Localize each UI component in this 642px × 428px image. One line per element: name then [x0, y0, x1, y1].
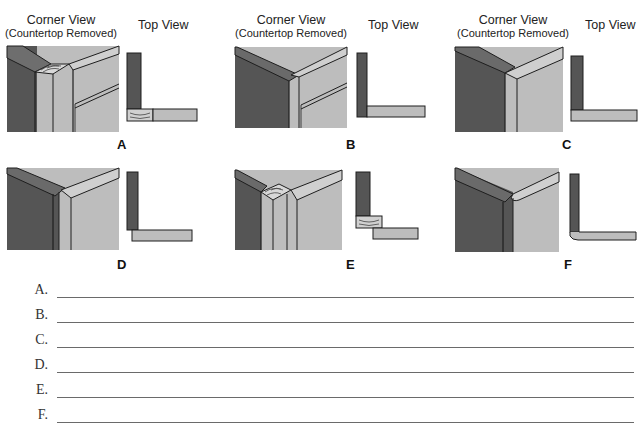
answer-line-a[interactable] — [57, 297, 634, 298]
corner-view-drawing-e — [235, 170, 342, 250]
top-view-drawing-c — [571, 56, 639, 122]
answer-row-e: E. — [0, 382, 642, 402]
corner-view-drawing-c — [455, 47, 563, 132]
corner-view-drawing-d — [7, 168, 119, 250]
answer-label: C. — [26, 332, 48, 348]
answer-row-a: A. — [0, 282, 642, 302]
panel-letter: D — [117, 257, 126, 272]
answer-line-d[interactable] — [57, 372, 634, 373]
answer-line-f[interactable] — [57, 422, 634, 423]
answer-label: A. — [26, 282, 48, 298]
top-view-drawing-e — [356, 172, 420, 240]
panel-letter: C — [562, 137, 571, 152]
answer-line-b[interactable] — [57, 322, 634, 323]
top-view-caption: Top View — [368, 18, 419, 32]
corner-view-drawing-f — [455, 168, 559, 252]
answer-line-c[interactable] — [57, 347, 634, 348]
answer-label: F. — [26, 407, 48, 423]
top-view-drawing-f — [570, 174, 638, 242]
corner-view-caption: Corner View (Countertop Removed) — [0, 14, 122, 40]
answer-line-e[interactable] — [57, 397, 634, 398]
panel-letter: E — [346, 257, 355, 272]
answer-label: B. — [26, 307, 48, 323]
top-view-drawing-a — [127, 53, 197, 121]
top-view-drawing-d — [127, 172, 193, 242]
clipped-text-remnant — [0, 0, 642, 5]
answer-row-f: F. — [0, 407, 642, 427]
answer-label: E. — [26, 382, 48, 398]
answer-label: D. — [26, 357, 48, 373]
corner-view-drawing-b — [235, 47, 347, 128]
corner-view-drawing-a — [7, 46, 119, 132]
panel-letter: A — [117, 137, 126, 152]
corner-view-caption: Corner View (Countertop Removed) — [230, 14, 352, 40]
panel-letter: B — [346, 137, 355, 152]
answer-row-b: B. — [0, 307, 642, 327]
answer-row-c: C. — [0, 332, 642, 352]
top-view-caption: Top View — [138, 18, 189, 32]
corner-view-caption: Corner View (Countertop Removed) — [452, 14, 574, 40]
panel-letter: F — [564, 257, 572, 272]
top-view-caption: Top View — [585, 18, 636, 32]
top-view-drawing-b — [357, 53, 427, 118]
answer-row-d: D. — [0, 357, 642, 377]
